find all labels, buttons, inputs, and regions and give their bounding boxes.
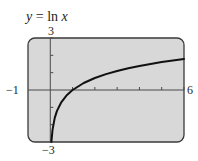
plot-area [0, 0, 198, 161]
